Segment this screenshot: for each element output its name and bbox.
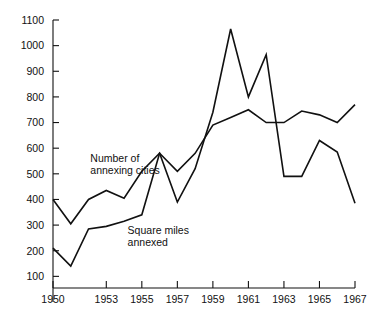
y-tick-label: 300 — [26, 219, 44, 231]
x-tick-label: 1957 — [166, 293, 190, 305]
series-line-annexing-cities — [53, 29, 355, 224]
x-tick-label: 1967 — [343, 293, 367, 305]
y-tick-label: 800 — [26, 91, 44, 103]
x-axis-ticks: 195019531955195719591961196319651967 — [41, 281, 367, 305]
x-tick-label: 1950 — [41, 293, 65, 305]
annotation-line-1: Number of — [90, 152, 139, 164]
annotation-label-0: Number ofannexing cities — [90, 152, 159, 176]
x-tick-label: 1959 — [201, 293, 225, 305]
y-tick-label: 100 — [26, 270, 44, 282]
annotation-label-1: Square milesannexed — [128, 224, 189, 248]
y-tick-label: 1000 — [21, 39, 45, 51]
chart-canvas: 10020030040050060070080090010001100 1950… — [0, 0, 374, 321]
line-chart: 10020030040050060070080090010001100 1950… — [0, 0, 374, 321]
x-tick-label: 1965 — [308, 293, 332, 305]
annotation-line-2: annexed — [128, 236, 168, 248]
y-tick-label: 500 — [26, 168, 44, 180]
y-tick-label: 1100 — [21, 14, 44, 26]
x-tick-label: 1961 — [237, 293, 261, 305]
annotation-line-2: annexing cities — [90, 164, 159, 176]
y-tick-label: 600 — [26, 142, 44, 154]
y-tick-label: 200 — [26, 245, 44, 257]
y-tick-label: 700 — [26, 116, 44, 128]
x-tick-label: 1963 — [272, 293, 296, 305]
y-tick-label: 400 — [26, 193, 44, 205]
y-tick-label: 900 — [26, 65, 44, 77]
series-lines — [53, 29, 355, 266]
annotation-line-1: Square miles — [128, 224, 189, 236]
x-tick-label: 1955 — [130, 293, 154, 305]
series-line-square-miles — [53, 105, 355, 267]
series-annotations: Number ofannexing citiesSquare milesanne… — [90, 152, 189, 248]
x-tick-label: 1953 — [95, 293, 119, 305]
